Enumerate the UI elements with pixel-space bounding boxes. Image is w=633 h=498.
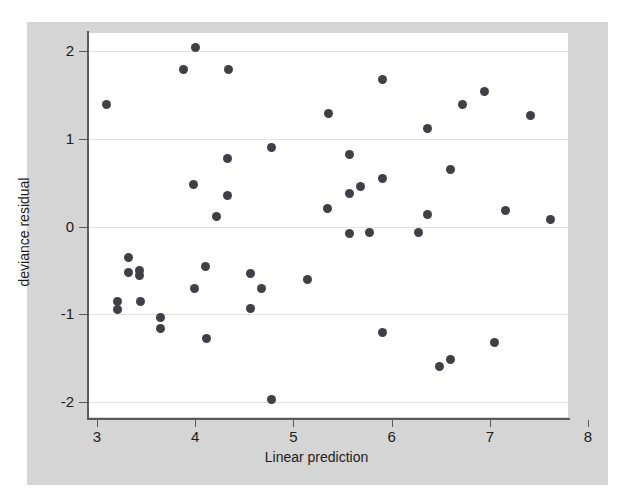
gridline-y-0 [89,227,568,228]
x-tick-label-3: 3 [82,428,112,445]
y-tick-label--1: -1 [50,305,74,322]
data-point [246,304,255,313]
data-point [189,180,198,189]
data-point [223,191,232,200]
y-tick-label-1: 1 [50,130,74,147]
data-point [124,268,133,277]
data-point [303,275,312,284]
data-point [323,204,332,213]
x-tick-label-6: 6 [377,428,407,445]
x-tick-label-5: 5 [278,428,308,445]
y-tick-mark [79,51,87,52]
data-point [414,228,423,237]
data-point [526,111,535,120]
x-tick-mark [293,420,294,427]
x-tick-mark [97,420,98,427]
data-point [224,65,233,74]
y-tick-label--2: -2 [50,393,74,410]
data-point [480,87,489,96]
data-point [201,262,210,271]
data-point [156,324,165,333]
data-point [435,362,444,371]
data-point [365,228,374,237]
data-point [546,215,555,224]
data-point [356,182,365,191]
gridline-y-2 [89,51,568,52]
data-point [345,150,354,159]
y-tick-mark [79,139,87,140]
x-tick-mark [195,420,196,427]
x-tick-mark [588,420,589,427]
data-point [423,124,432,133]
y-tick-label-2: 2 [50,42,74,59]
data-point [446,165,455,174]
data-point [345,189,354,198]
x-tick-label-8: 8 [573,428,603,445]
data-point [267,143,276,152]
y-tick-mark [79,402,87,403]
data-point [191,43,200,52]
data-point [190,284,199,293]
x-tick-label-7: 7 [475,428,505,445]
data-point [458,100,467,109]
x-axis-line [87,418,570,420]
y-tick-label-0: 0 [50,218,74,235]
y-tick-mark [79,314,87,315]
y-axis-label: deviance residual [16,142,32,322]
data-point [246,269,255,278]
data-point [378,174,387,183]
data-point [102,100,111,109]
data-point [202,334,211,343]
x-tick-mark [392,420,393,427]
data-point [156,313,165,322]
scatter-plot-figure: 210-1-2 345678 Linear prediction devianc… [0,0,633,498]
x-tick-label-4: 4 [180,428,210,445]
data-point [223,154,232,163]
data-point [113,305,122,314]
plot-panel [89,33,568,417]
data-point [136,297,145,306]
data-point [345,229,354,238]
x-tick-mark [490,420,491,427]
y-tick-mark [79,227,87,228]
data-point [378,75,387,84]
data-point [378,328,387,337]
data-point [135,271,144,280]
data-point [490,338,499,347]
data-point [446,355,455,364]
data-point [212,212,221,221]
x-axis-label: Linear prediction [0,449,633,465]
data-point [124,253,133,262]
data-point [257,284,266,293]
data-point [501,206,510,215]
gridline-y-1 [89,139,568,140]
gridline-y--2 [89,402,568,403]
data-point [324,109,333,118]
data-point [179,65,188,74]
data-point [423,210,432,219]
y-axis-line [87,31,89,419]
